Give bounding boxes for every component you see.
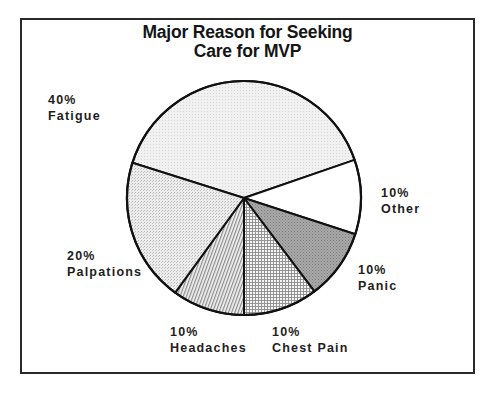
- label-fatigue: 40% Fatigue: [48, 92, 101, 124]
- label-panic: 10% Panic: [358, 262, 397, 294]
- label-palpations: 20% Palpations: [67, 248, 142, 280]
- label-other: 10% Other: [381, 185, 420, 217]
- label-other-name: Other: [381, 201, 420, 217]
- label-headaches-name: Headaches: [170, 340, 247, 356]
- label-chest-pain: 10% Chest Pain: [272, 324, 349, 356]
- label-palpations-name: Palpations: [67, 264, 142, 280]
- label-other-pct: 10%: [381, 185, 420, 201]
- label-chest-pain-pct: 10%: [272, 324, 349, 340]
- label-headaches: 10% Headaches: [170, 324, 247, 356]
- label-fatigue-name: Fatigue: [48, 108, 101, 124]
- label-panic-name: Panic: [358, 278, 397, 294]
- label-panic-pct: 10%: [358, 262, 397, 278]
- label-headaches-pct: 10%: [170, 324, 247, 340]
- label-fatigue-pct: 40%: [48, 92, 101, 108]
- pie-chart: [0, 0, 495, 393]
- label-chest-pain-name: Chest Pain: [272, 340, 349, 356]
- label-palpations-pct: 20%: [67, 248, 142, 264]
